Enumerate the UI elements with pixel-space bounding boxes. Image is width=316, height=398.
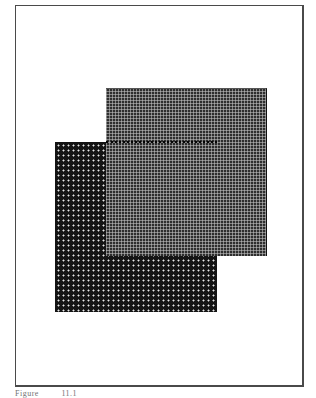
figure-caption: Figure 11.1 xyxy=(15,389,97,398)
front-square-textured xyxy=(106,88,267,256)
hidden-edge-dotted-line xyxy=(106,141,217,143)
caption-label: Figure xyxy=(15,389,39,398)
caption-number: 11.1 xyxy=(61,389,77,398)
